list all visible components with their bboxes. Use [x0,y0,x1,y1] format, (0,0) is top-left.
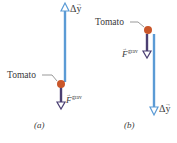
displacement-arrow-a [61,3,69,82]
vector-arrow-icon: → [122,46,127,51]
tomato-icon [57,80,65,88]
gravity-arrow-b [143,34,151,58]
force-superscript-b: grav [128,48,138,54]
caption-b: (b) [124,120,135,130]
leader-line-b [130,22,144,27]
panel-b: Δy → F grav → Tomato (b) [95,17,171,130]
vector-arrow-icon: → [165,101,171,107]
object-label-a: Tomato [7,70,36,80]
object-label-b: Tomato [95,17,124,27]
panel-a: Δy → F grav → Tomato (a) [7,1,82,130]
gravity-arrow-a [57,86,65,109]
vector-arrow-icon: → [66,92,71,97]
caption-a: (a) [34,120,45,130]
force-superscript-a: grav [72,94,82,100]
vector-arrow-icon: → [76,1,82,7]
tomato-icon [144,26,152,34]
displacement-arrow-b [150,34,158,115]
leader-line-a [42,75,57,81]
